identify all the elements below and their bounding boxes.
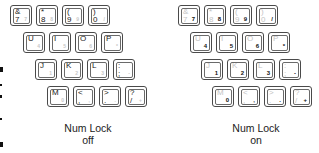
key-bottom-label: , <box>78 97 80 105</box>
key-top-label: M <box>217 89 224 97</box>
key-numpad-label: , <box>89 98 90 103</box>
key-bottom-label: 0 <box>93 16 97 24</box>
key: *88 <box>204 5 226 26</box>
key: M0 <box>212 86 234 107</box>
key-top-label: I <box>54 35 56 43</box>
key-top-label: : <box>284 62 286 70</box>
key: &77 <box>178 5 200 26</box>
key: *88 <box>36 5 58 26</box>
key-top-label: O <box>247 35 253 43</box>
key-numpad-label: 1 <box>215 70 218 76</box>
key-top-label: ? <box>295 89 299 97</box>
key-numpad-label: - <box>294 70 296 76</box>
key-bottom-label: ; <box>118 70 120 78</box>
key-top-label: < <box>78 89 83 97</box>
key-numpad-label: . <box>115 98 116 103</box>
key-bottom-label: 8 <box>41 16 45 24</box>
key-numpad-label: + <box>139 98 142 103</box>
key-numpad-label: . <box>279 97 281 103</box>
key-numpad-label: - <box>128 71 130 76</box>
key-numpad-label: / <box>271 16 273 22</box>
key-numpad-label: 0 <box>226 97 229 103</box>
key-top-label: P <box>106 35 111 43</box>
key: I5 <box>49 32 71 53</box>
key-numpad-label: * <box>116 44 118 49</box>
key: P* <box>101 32 123 53</box>
key-numpad-label: 8 <box>218 16 221 22</box>
key: J1 <box>35 59 57 80</box>
key: &77 <box>10 5 32 26</box>
key-bottom-label: / <box>130 97 132 105</box>
key-top-label: K <box>66 62 71 70</box>
key: K2 <box>61 59 83 80</box>
key: K2 <box>227 59 249 80</box>
page-edge-mark <box>0 67 3 72</box>
caption-line1: Num Lock <box>48 122 128 134</box>
caption-line1: Num Lock <box>216 122 296 134</box>
key-top-label: & <box>183 8 188 16</box>
key-numpad-label: + <box>303 97 307 103</box>
key: U4 <box>23 32 45 53</box>
key-top-label: L <box>92 62 96 70</box>
key-numpad-label: 8 <box>50 17 53 22</box>
key-bottom-label: . <box>269 97 271 105</box>
key: L3 <box>253 59 275 80</box>
key-top-label: J <box>206 62 210 70</box>
key-numpad-label: 0 <box>61 98 64 103</box>
key-numpad-label: 9 <box>76 17 79 22</box>
caption-num-lock-on: Num Lock on <box>216 122 296 146</box>
key: P* <box>268 32 290 53</box>
key-numpad-label: / <box>104 17 105 22</box>
key-bottom-label: 7 <box>15 16 19 24</box>
page-edge-mark <box>0 95 2 98</box>
key-top-label: * <box>41 8 44 16</box>
key: (99 <box>62 5 84 26</box>
key-top-label: L <box>258 62 262 70</box>
key-bottom-label: , <box>243 97 245 105</box>
key: U4 <box>190 32 212 53</box>
key-top-label: < <box>243 89 248 97</box>
key-top-label: ? <box>130 89 134 97</box>
key-numpad-label: 7 <box>24 17 27 22</box>
key-top-label: P <box>273 35 278 43</box>
key-top-label: U <box>195 35 201 43</box>
key-top-label: J <box>40 62 44 70</box>
key: ?/+ <box>290 86 312 107</box>
key: L3 <box>87 59 109 80</box>
key-top-label: & <box>15 8 20 16</box>
key: O6 <box>242 32 264 53</box>
key-top-label: * <box>209 8 212 16</box>
key-bottom-label: / <box>295 97 297 105</box>
key-top-label: ) <box>261 8 264 16</box>
key-numpad-label: 6 <box>256 43 259 49</box>
key-top-label: ( <box>235 8 238 16</box>
key-top-label: K <box>232 62 237 70</box>
key: I5 <box>216 32 238 53</box>
key-numpad-label: 2 <box>75 71 78 76</box>
key-bottom-label: 8 <box>209 16 213 24</box>
caption-line2: on <box>216 134 296 146</box>
key-bottom-label: 9 <box>67 16 71 24</box>
key: J1 <box>201 59 223 80</box>
key-numpad-label: , <box>253 97 255 103</box>
key-numpad-label: 4 <box>37 44 40 49</box>
key: M0 <box>47 86 69 107</box>
key: (99 <box>230 5 252 26</box>
caption-line2: off <box>48 134 128 146</box>
key-numpad-label: * <box>283 43 285 49</box>
key: )0/ <box>256 5 278 26</box>
key-numpad-label: 2 <box>241 70 244 76</box>
key-numpad-label: 1 <box>49 71 52 76</box>
key-top-label: > <box>269 89 274 97</box>
key-numpad-label: 4 <box>204 43 207 49</box>
key: >.. <box>99 86 121 107</box>
key-numpad-label: 3 <box>101 71 104 76</box>
key-top-label: M <box>52 89 59 97</box>
key-bottom-label: 9 <box>235 16 239 24</box>
page-edge-mark <box>0 142 3 147</box>
key-numpad-label: 5 <box>63 44 66 49</box>
key-top-label: ) <box>93 8 96 16</box>
key-numpad-label: 7 <box>192 16 195 22</box>
key: :;- <box>279 59 301 80</box>
key-top-label: ( <box>67 8 70 16</box>
